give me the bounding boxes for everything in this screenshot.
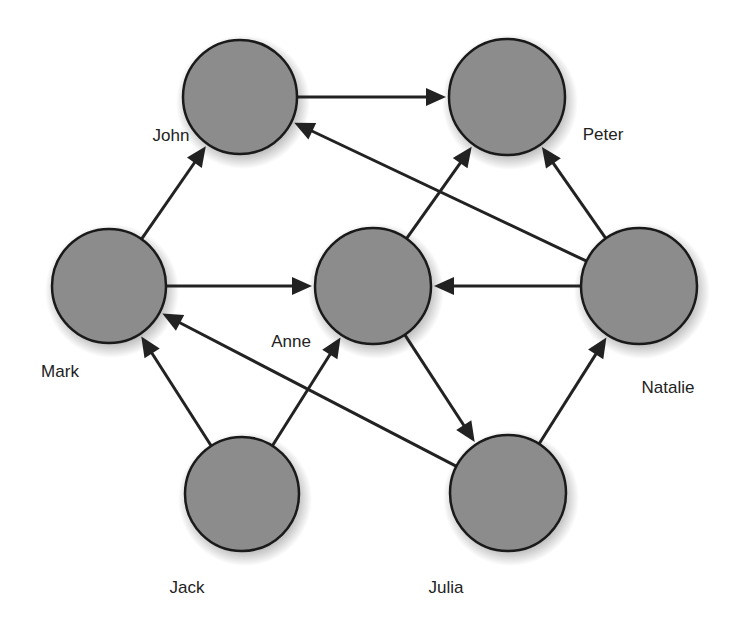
edge-julia-to-natalie	[539, 351, 598, 444]
edge-jack-to-mark	[150, 350, 211, 446]
edge-anne-to-julia	[405, 335, 466, 429]
node-label-anne: Anne	[271, 332, 311, 351]
node-labels: JohnPeterMarkAnneNatalieJackJulia	[41, 125, 694, 597]
node-label-peter: Peter	[583, 125, 624, 144]
node-john	[183, 40, 297, 154]
node-label-jack: Jack	[170, 578, 205, 597]
edge-mark-to-john	[142, 160, 197, 240]
arrowhead-icon	[456, 420, 475, 442]
edge-natalie-to-peter	[551, 160, 606, 238]
nodes	[52, 39, 697, 551]
node-anne	[315, 228, 431, 344]
node-label-julia: Julia	[429, 578, 465, 597]
social-graph-diagram: JohnPeterMarkAnneNatalieJackJulia	[0, 0, 735, 622]
node-julia	[450, 435, 566, 551]
node-label-natalie: Natalie	[642, 378, 695, 397]
node-label-john: John	[153, 126, 190, 145]
node-label-mark: Mark	[41, 362, 79, 381]
node-natalie	[581, 228, 697, 344]
node-mark	[52, 229, 166, 343]
node-peter	[449, 39, 565, 155]
node-jack	[185, 437, 299, 551]
